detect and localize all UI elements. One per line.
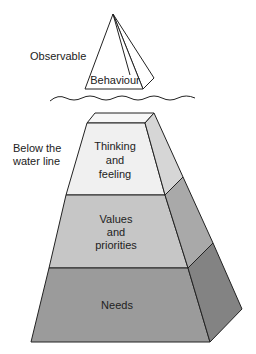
layer-thinking-label-3: feeling (99, 168, 131, 180)
layer-values-label-2: and (107, 226, 125, 238)
layer-thinking-label-1: Thinking (94, 140, 136, 152)
behaviour-pyramid: Behaviour (85, 14, 154, 89)
iceberg-diagram: Observable Behaviour Below the water lin… (0, 0, 256, 354)
below-waterline-label-line2: water line (12, 155, 60, 167)
top-face (87, 113, 154, 123)
behaviour-label: Behaviour (90, 74, 140, 86)
layer-thinking-label-2: and (106, 154, 124, 166)
layer-values-label-1: Values (100, 213, 133, 225)
below-waterline-label-line1: Below the (13, 142, 61, 154)
layer-values-label-3: priorities (95, 239, 137, 251)
observable-label: Observable (30, 50, 86, 62)
submerged-pyramid: Thinking and feeling Values and prioriti… (31, 113, 242, 342)
layer-needs-label: Needs (101, 299, 133, 311)
water-line (50, 96, 195, 101)
